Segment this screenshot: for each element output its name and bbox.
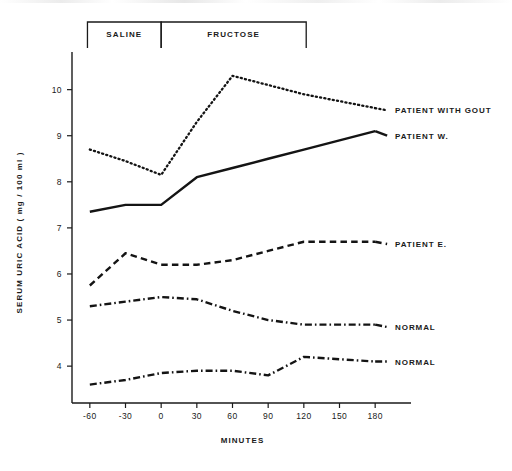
series-line-2 [90, 242, 375, 286]
saline-bracket-label: SALINE [106, 30, 142, 39]
series-line-3 [90, 297, 375, 325]
x-tick-label: -30 [119, 411, 133, 421]
y-axis-ticks: 45678910 [52, 85, 72, 371]
x-tick-label: -60 [83, 411, 97, 421]
x-tick-label: 150 [332, 411, 347, 421]
y-axis-title: SERUM URIC ACID ( mg / 100 ml ) [15, 152, 24, 314]
x-tick-label: 180 [367, 411, 382, 421]
treatment-bracket-group: SALINE FRUCTOSE [87, 22, 306, 48]
x-axis-title: MINUTES [221, 436, 265, 445]
fructose-bracket-label: FRUCTOSE [207, 30, 260, 39]
series-label-1: PATIENT W. [395, 132, 449, 141]
y-tick-label: 5 [57, 315, 62, 325]
data-series-group [90, 76, 387, 385]
serum-uric-acid-line-chart: SALINE FRUCTOSE 45678910 -60-30030609012… [0, 0, 512, 471]
series-leader-3 [375, 325, 387, 327]
series-labels-group: PATIENT WITH GOUTPATIENT W.PATIENT E.NOR… [395, 106, 491, 366]
y-tick-label: 10 [52, 85, 62, 95]
series-line-1 [90, 131, 375, 212]
series-leader-1 [375, 131, 387, 136]
x-tick-label: 120 [296, 411, 311, 421]
x-tick-label: 30 [192, 411, 202, 421]
series-label-4: NORMAL [395, 358, 436, 367]
x-tick-label: 60 [227, 411, 237, 421]
series-label-2: PATIENT E. [395, 240, 447, 249]
x-tick-label: 90 [263, 411, 273, 421]
y-tick-label: 6 [57, 269, 62, 279]
x-axis-ticks: -60-300306090120150180 [83, 403, 383, 421]
series-label-3: NORMAL [395, 323, 436, 332]
series-line-4 [90, 357, 375, 385]
y-tick-label: 7 [57, 223, 62, 233]
series-leader-2 [375, 242, 387, 244]
x-tick-label: 0 [159, 411, 164, 421]
series-line-0 [90, 76, 375, 175]
y-tick-label: 4 [57, 361, 62, 371]
y-tick-label: 9 [57, 131, 62, 141]
series-leader-0 [375, 108, 387, 110]
series-label-0: PATIENT WITH GOUT [395, 106, 491, 115]
y-tick-label: 8 [57, 177, 62, 187]
